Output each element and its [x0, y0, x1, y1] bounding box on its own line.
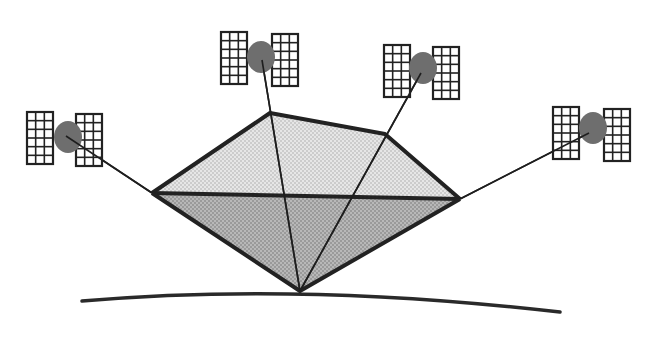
satellite-top-right-icon [384, 45, 459, 99]
solar-panel-left [221, 32, 247, 84]
solar-panel-left [553, 107, 579, 159]
lower-geometry-face [152, 193, 460, 291]
satellite-left-icon [27, 112, 102, 166]
satellite-body [579, 112, 607, 144]
los-line-sat-4 [460, 133, 589, 199]
satellite-top-center-icon [221, 32, 298, 86]
solar-panel-left [27, 112, 53, 164]
satellite-body [247, 41, 275, 73]
upper-geometry-face [152, 113, 460, 199]
solar-panel-right [604, 109, 630, 161]
satellite-far-right-icon [553, 107, 630, 161]
satellite-body [409, 52, 437, 84]
solar-panel-left [384, 45, 410, 97]
satellite-geometry-diagram [0, 0, 658, 337]
earth-surface-curve [82, 294, 560, 312]
solar-panel-right [272, 34, 298, 86]
solar-panel-right [433, 47, 459, 99]
